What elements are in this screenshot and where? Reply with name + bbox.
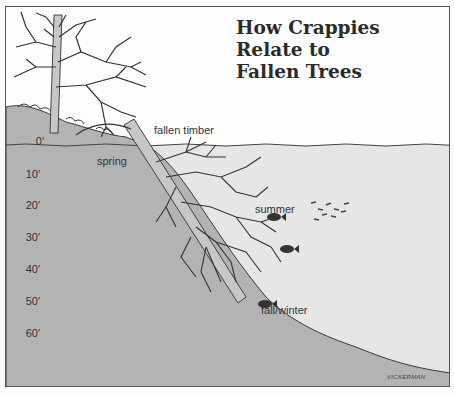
label-fall-winter: fall/winter [261,304,307,316]
standing-tree-trunk [50,15,62,133]
figure-title: How Crappies Relate to Fallen Trees [236,17,450,83]
label-summer: summer [255,203,295,215]
label-fallen-timber: fallen timber [154,124,214,136]
depth-tick: 20' [10,199,40,211]
illustration-frame: How Crappies Relate to Fallen Trees fall… [5,6,450,387]
depth-tick: 30' [10,231,40,243]
figure-title-line-1: How Crappies Relate to [236,17,450,61]
depth-tick: 40' [10,263,40,275]
label-spring: spring [97,155,127,167]
artist-signature: VICKERMAN [387,374,425,380]
depth-tick: 50' [10,295,40,307]
figure-canvas: How Crappies Relate to Fallen Trees fall… [0,0,454,395]
figure-title-line-2: Fallen Trees [236,61,450,83]
depth-tick: 60' [10,327,40,339]
depth-tick: 10' [10,168,40,180]
depth-tick: 0' [14,135,44,147]
